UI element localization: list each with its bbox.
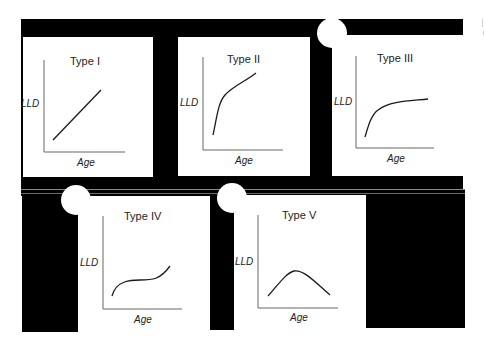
panel-type-ii: Type II LLD Age — [178, 37, 310, 176]
edge-mark — [483, 31, 484, 35]
hole-punch-circle — [317, 18, 347, 48]
x-axis-label: Age — [290, 312, 308, 323]
panel-title: Type V — [282, 209, 316, 221]
hole-punch-circle — [61, 185, 91, 215]
y-axis-label: LLD — [180, 97, 198, 108]
y-axis-label: LLD — [21, 98, 39, 109]
curve — [365, 99, 428, 137]
panel-title: Type II — [227, 53, 260, 65]
panel-type-iii: Type III LLD Age — [332, 35, 463, 174]
curve — [112, 266, 170, 296]
curve — [53, 90, 101, 140]
y-axis-label: LLD — [334, 96, 352, 107]
y-axis-label: LLD — [235, 256, 253, 267]
edge-mark — [482, 19, 483, 27]
x-axis-label: Age — [235, 155, 253, 166]
panel-title: Type III — [377, 52, 413, 64]
x-axis-label: Age — [77, 157, 95, 168]
panel-type-v: Type V LLD Age — [234, 195, 366, 349]
y-axis-label: LLD — [80, 257, 98, 268]
panel-title: Type IV — [124, 210, 161, 222]
curve — [268, 271, 330, 296]
panel-type-i: Type I LLD Age — [23, 38, 153, 177]
hole-punch-circle — [217, 183, 247, 213]
curve — [213, 73, 256, 135]
panel-type-iv: Type IV LLD Age — [78, 196, 210, 349]
x-axis-label: Age — [387, 153, 405, 164]
frame-bottom-right-block — [366, 190, 465, 328]
panel-title: Type I — [70, 55, 100, 67]
x-axis-label: Age — [134, 314, 152, 325]
frame-gap-1 — [153, 19, 178, 181]
